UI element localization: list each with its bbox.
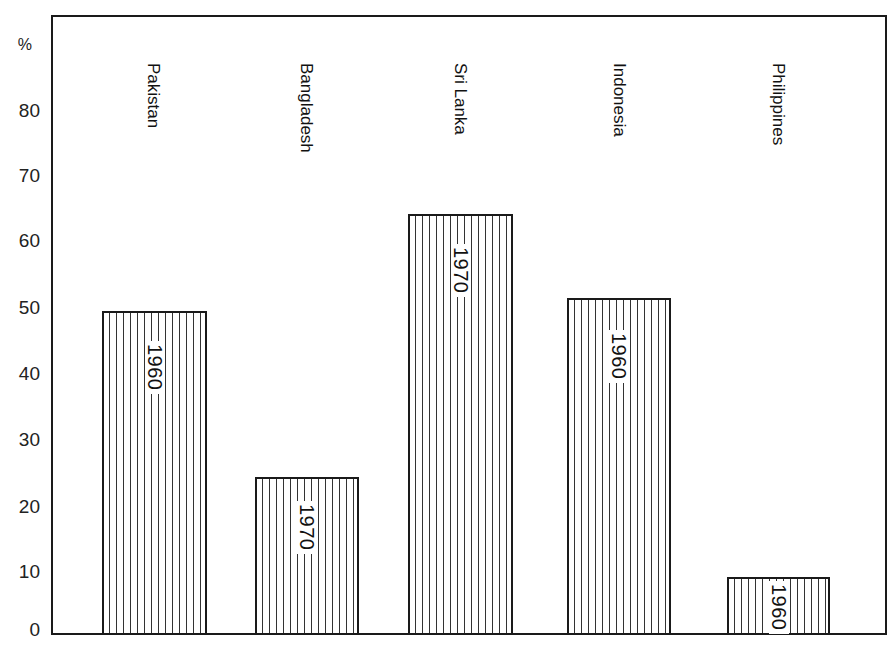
category-label-pakistan: Pakistan [144, 63, 162, 128]
y-tick-label-40: 40 [0, 364, 40, 384]
bar-year-label: 1960 [145, 341, 165, 394]
bar-indonesia: 1960 [567, 298, 671, 633]
bar-year-label: 1960 [609, 330, 629, 383]
y-tick-label-80: 80 [0, 101, 40, 121]
y-axis-unit-label: % [2, 36, 32, 54]
bar-bangladesh: 1970 [255, 477, 359, 633]
bar-philippines: 1960 [727, 577, 830, 633]
y-tick-label-70: 70 [0, 166, 40, 186]
bar-year-label: 1970 [451, 244, 471, 297]
y-tick-label-50: 50 [0, 298, 40, 318]
category-label-bangladesh: Bangladesh [297, 63, 315, 153]
y-tick-label-20: 20 [0, 497, 40, 517]
y-tick-label-30: 30 [0, 430, 40, 450]
bar-year-label: 1960 [769, 581, 789, 634]
bar-chart: % 80 70 60 50 40 30 20 10 0 Pakistan Ban… [0, 0, 896, 651]
category-label-philippines: Philippines [769, 63, 787, 145]
bar-sri-lanka: 1970 [408, 214, 513, 633]
bar-pakistan: 1960 [102, 311, 207, 633]
y-tick-label-10: 10 [0, 562, 40, 582]
category-label-indonesia: Indonesia [610, 63, 628, 137]
y-tick-label-0: 0 [0, 620, 40, 640]
category-label-sri-lanka: Sri Lanka [451, 63, 469, 135]
bar-year-label: 1970 [297, 501, 317, 554]
y-tick-label-60: 60 [0, 231, 40, 251]
